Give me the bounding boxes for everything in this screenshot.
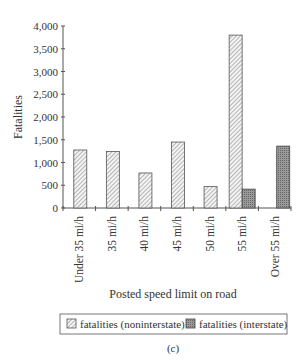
bar-chart: 05001,0001,5002,0002,5003,0003,5004,000 … (0, 0, 305, 362)
x-tick-label: 35 mi/h (106, 216, 118, 252)
bar-noninterstate (106, 152, 119, 208)
caption: (c) (167, 342, 180, 355)
legend-label-noninterstate: fatalities (noninterstate) (80, 318, 185, 331)
bar-noninterstate (74, 150, 87, 208)
y-tick-label: 1,000 (33, 157, 58, 169)
legend-swatch-interstate (186, 319, 195, 328)
x-tick-label: 50 mi/h (204, 216, 216, 252)
x-axis-label: Posted speed limit on road (109, 287, 236, 301)
x-tick-label: 40 mi/h (138, 216, 150, 252)
bar-noninterstate (172, 142, 185, 208)
y-axis-label: Fatalities (11, 95, 25, 139)
y-tick-label: 1,500 (33, 134, 58, 146)
legend-label-interstate: fatalities (interstate) (199, 318, 288, 331)
bar-noninterstate (204, 187, 217, 208)
y-tick-label: 2,000 (33, 111, 58, 123)
bar-interstate (277, 146, 290, 208)
legend-swatch-noninterstate (67, 319, 76, 328)
y-tick-label: 500 (42, 179, 59, 191)
y-tick-label: 4,000 (33, 20, 58, 32)
axes: 05001,0001,5002,0002,5003,0003,5004,000 (33, 20, 291, 214)
bar-noninterstate (139, 173, 152, 208)
bar-noninterstate (229, 35, 242, 208)
x-tick-label: Under 35 mi/h (73, 216, 85, 283)
y-tick-label: 3,000 (33, 66, 58, 78)
x-tick-label: Over 55 mi/h (269, 216, 281, 278)
x-tick-label: 45 mi/h (171, 216, 183, 252)
y-tick-label: 3,500 (33, 43, 58, 55)
y-tick-label: 2,500 (33, 88, 58, 100)
bar-interstate (242, 189, 255, 208)
x-tick-label: 55 mi/h (236, 216, 248, 252)
y-tick-label: 0 (53, 202, 59, 214)
legend: fatalities (noninterstate)fatalities (in… (60, 314, 288, 334)
bars (74, 35, 290, 208)
